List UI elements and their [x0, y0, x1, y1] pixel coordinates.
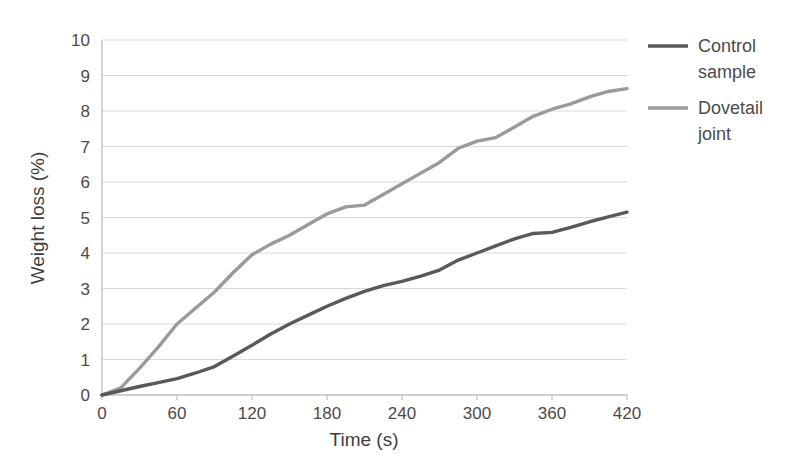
x-tick-label: 360	[538, 404, 566, 423]
series-line-control-sample	[102, 212, 627, 395]
y-axis-title: Weight loss (%)	[27, 152, 48, 285]
series-line-dovetail-joint	[102, 89, 627, 395]
y-tick-label: 3	[81, 280, 90, 299]
y-tick-label: 10	[71, 31, 90, 50]
x-tick-label: 120	[238, 404, 266, 423]
gridlines	[102, 40, 627, 360]
y-tick-label: 1	[81, 351, 90, 370]
x-tick-label: 240	[388, 404, 416, 423]
legend-label-dovetail-joint-line2: joint	[697, 124, 731, 144]
x-tick-label: 420	[613, 404, 641, 423]
x-axis-tick-labels: 060120180240300360420	[97, 404, 641, 423]
legend-label-dovetail-joint-line1: Dovetail	[698, 98, 763, 118]
chart-page: 012345678910 060120180240300360420 Time …	[0, 0, 794, 473]
y-tick-label: 4	[81, 244, 90, 263]
legend-label-control-sample-line1: Control	[698, 36, 756, 56]
line-chart: 012345678910 060120180240300360420 Time …	[0, 0, 794, 473]
legend-label-control-sample-line2: sample	[698, 62, 756, 82]
y-tick-label: 5	[81, 209, 90, 228]
x-tick-label: 180	[313, 404, 341, 423]
y-tick-label: 0	[81, 386, 90, 405]
x-tick-label: 0	[97, 404, 106, 423]
x-tick-label: 60	[168, 404, 187, 423]
x-tick-label: 300	[463, 404, 491, 423]
y-tick-label: 7	[81, 138, 90, 157]
y-axis-tick-labels: 012345678910	[71, 31, 90, 405]
y-tick-label: 9	[81, 67, 90, 86]
chart-legend: Control sample Dovetail joint	[648, 36, 763, 144]
y-tick-label: 6	[81, 173, 90, 192]
x-axis-tick-marks	[102, 395, 627, 400]
y-tick-label: 8	[81, 102, 90, 121]
y-tick-label: 2	[81, 315, 90, 334]
x-axis-title: Time (s)	[330, 429, 399, 450]
